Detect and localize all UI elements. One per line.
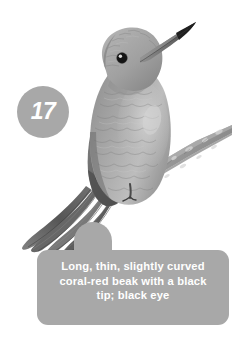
caption-callout: Long, thin, slightly curved coral-red be… [37, 250, 229, 325]
field-guide-plate: 17 Long, thin, slightly curved coral-red… [0, 0, 245, 348]
bird-eye [117, 53, 128, 64]
plate-number: 17 [31, 100, 56, 123]
plate-number-badge: 17 [17, 86, 69, 138]
caption-text: Long, thin, slightly curved coral-red be… [47, 259, 219, 303]
